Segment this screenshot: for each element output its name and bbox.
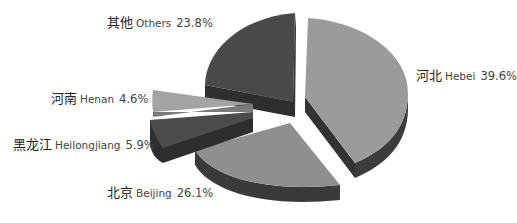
slice-hebei xyxy=(305,18,408,178)
label-hebei-pct: 39.6% xyxy=(480,69,517,83)
label-heilongjiang-en: Heilongjiang xyxy=(55,139,121,151)
label-hebei-en: Hebei xyxy=(445,70,475,82)
label-others-pct: 23.8% xyxy=(176,16,213,30)
label-hebei: 河北Hebei39.6% xyxy=(416,69,517,83)
label-henan-pct: 4.6% xyxy=(119,92,148,106)
label-beijing-pct: 26.1% xyxy=(177,186,214,200)
label-others-en: Others xyxy=(136,17,171,29)
label-beijing: 北京Beijing26.1% xyxy=(107,186,213,200)
label-henan-cn: 河南 xyxy=(51,91,77,106)
label-heilongjiang-cn: 黑龙江 xyxy=(13,137,52,152)
label-beijing-en: Beijing xyxy=(136,187,172,199)
label-heilongjiang-pct: 5.9% xyxy=(126,138,155,152)
label-others-cn: 其他 xyxy=(107,15,133,30)
label-beijing-cn: 北京 xyxy=(107,185,133,200)
label-hebei-cn: 河北 xyxy=(416,68,442,83)
label-henan-en: Henan xyxy=(80,93,114,105)
label-others: 其他Others23.8% xyxy=(107,16,213,30)
label-heilongjiang: 黑龙江Heilongjiang5.9% xyxy=(13,138,155,152)
label-henan: 河南Henan4.6% xyxy=(51,92,148,106)
